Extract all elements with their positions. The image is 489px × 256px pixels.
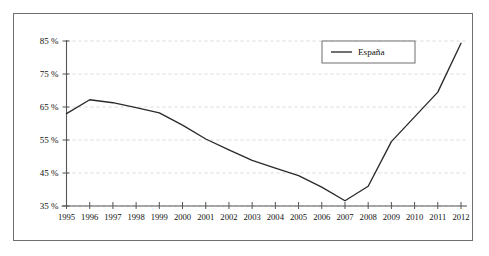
line-chart: 35 %45 %55 %65 %75 %85 % 199519961997199…: [0, 0, 489, 256]
x-tick-label-2005: 2005: [290, 212, 307, 222]
x-tick-label-2001: 2001: [197, 212, 214, 222]
gridlines-group: [67, 41, 468, 206]
y-tick-label-45: 45 %: [40, 168, 59, 178]
x-tick-label-2011: 2011: [429, 212, 446, 222]
y-tick-label-65: 65 %: [40, 102, 59, 112]
x-tick-label-1997: 1997: [104, 212, 122, 222]
x-tick-label-1995: 1995: [58, 212, 75, 222]
data-series-group: [67, 43, 462, 200]
x-tick-label-2000: 2000: [174, 212, 191, 222]
x-tick-label-2003: 2003: [244, 212, 261, 222]
chart-legend[interactable]: España: [322, 41, 415, 63]
x-tick-label-1998: 1998: [128, 212, 145, 222]
x-tick-label-1996: 1996: [81, 212, 99, 222]
x-tick-label-2004: 2004: [267, 212, 285, 222]
x-tick-label-2008: 2008: [360, 212, 377, 222]
legend-label-España: España: [358, 47, 385, 57]
x-tick-label-2002: 2002: [220, 212, 237, 222]
axes-group: [62, 40, 468, 206]
x-tick-label-2009: 2009: [383, 212, 400, 222]
x-tick-label-2010: 2010: [406, 212, 423, 222]
chart-figure: 35 %45 %55 %65 %75 %85 % 199519961997199…: [0, 0, 489, 256]
x-tick-label-1999: 1999: [151, 212, 168, 222]
x-tick-label-2012: 2012: [452, 212, 469, 222]
y-tick-label-55: 55 %: [40, 135, 59, 145]
y-tick-label-35: 35 %: [40, 201, 59, 211]
x-tick-label-2007: 2007: [336, 212, 354, 222]
y-tick-label-85: 85 %: [40, 36, 59, 46]
x-tick-label-2006: 2006: [313, 212, 331, 222]
series-line-España: [67, 43, 462, 200]
y-axis-tick-labels: 35 %45 %55 %65 %75 %85 %: [40, 36, 59, 211]
y-tick-label-75: 75 %: [40, 69, 59, 79]
x-axis-tick-labels: 1995199619971998199920002001200220032004…: [58, 212, 470, 222]
